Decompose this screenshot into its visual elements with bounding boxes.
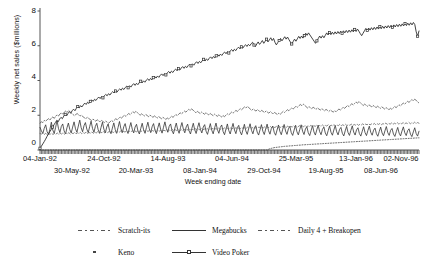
x-tick-04-jun-94: 04-Jun-94 bbox=[215, 155, 249, 163]
legend-swatch-megabucks-icon bbox=[172, 225, 206, 235]
legend-label-daily-4-breakopen: Daily 4 + Breakopen bbox=[298, 226, 361, 235]
legend-label-scratch-its: Scratch-its bbox=[118, 226, 150, 235]
x-tick-30-may-92: 30-May-92 bbox=[54, 167, 90, 175]
x-tick-29-oct-94: 29-Oct-94 bbox=[247, 167, 280, 175]
series-line-video-poker bbox=[40, 22, 419, 148]
series-line-megabucks bbox=[40, 120, 419, 136]
x-tick-04-jan-92: 04-Jan-92 bbox=[23, 155, 57, 163]
x-tick-14-aug-93: 14-Aug-93 bbox=[150, 155, 185, 163]
chart-legend: Scratch-itsMegabucksDaily 4 + BreakopenK… bbox=[0, 222, 426, 275]
x-tick-24-oct-92: 24-Oct-92 bbox=[87, 155, 120, 163]
series-line-keno bbox=[40, 138, 419, 150]
legend-item-keno[interactable]: Keno bbox=[78, 244, 134, 260]
series-line-scratch-its bbox=[40, 99, 419, 123]
chart-plot-area: Weekly net sales ($millions) 8 6 4 2 0 0… bbox=[0, 0, 426, 200]
figure: Weekly net sales ($millions) 8 6 4 2 0 0… bbox=[0, 0, 426, 275]
x-tick-20-mar-93: 20-Mar-93 bbox=[119, 167, 154, 175]
legend-item-daily-4-breakopen[interactable]: Daily 4 + Breakopen bbox=[258, 222, 361, 238]
legend-swatch-video-poker-icon bbox=[172, 247, 206, 257]
x-tick-19-aug-95: 19-Aug-95 bbox=[308, 167, 343, 175]
legend-item-video-poker[interactable]: Video Poker bbox=[172, 244, 249, 260]
legend-swatch-scratch-its-icon bbox=[78, 225, 112, 235]
legend-label-video-poker: Video Poker bbox=[212, 248, 249, 257]
x-tick-02-nov-96: 02-Nov-96 bbox=[383, 155, 418, 163]
x-tick-13-jan-96: 13-Jan-96 bbox=[339, 155, 373, 163]
legend-row-2: KenoVideo Poker bbox=[0, 244, 426, 266]
x-axis-label: Week ending date bbox=[185, 178, 241, 185]
legend-row-1: Scratch-itsMegabucksDaily 4 + Breakopen bbox=[0, 222, 426, 244]
x-tick-08-jun-96: 08-Jun-96 bbox=[364, 167, 398, 175]
legend-label-megabucks: Megabucks bbox=[212, 226, 247, 235]
legend-swatch-daily-4-breakopen-icon bbox=[258, 225, 292, 235]
legend-item-scratch-its[interactable]: Scratch-its bbox=[78, 222, 150, 238]
legend-label-keno: Keno bbox=[118, 248, 134, 257]
x-tick-08-jan-94: 08-Jan-94 bbox=[183, 167, 217, 175]
axes bbox=[40, 8, 419, 150]
legend-item-megabucks[interactable]: Megabucks bbox=[172, 222, 247, 238]
legend-swatch-keno-icon bbox=[78, 247, 112, 257]
x-tick-25-mar-95: 25-Mar-95 bbox=[279, 155, 314, 163]
x-axis-label-wrap: Week ending date bbox=[0, 178, 426, 185]
